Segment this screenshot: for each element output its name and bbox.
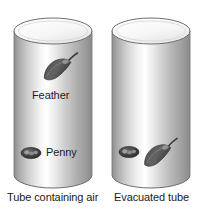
falling-objects-figure [0,0,204,209]
caption-evacuated-tube: Evacuated tube [114,191,189,203]
penny-label: Penny [46,146,77,158]
air-tube-body [14,31,92,188]
tube-containing-air [14,18,92,188]
feather-label: Feather [32,89,69,101]
tube-evacuated [112,18,190,188]
air-tube-top-face [14,18,92,44]
caption-tube-containing-air: Tube containing air [7,191,98,203]
evacuated-tube-top-face [112,18,190,44]
air-tube-penny-icon [21,147,41,158]
evacuated-tube-penny-icon [119,146,139,157]
